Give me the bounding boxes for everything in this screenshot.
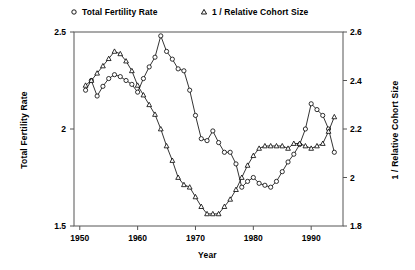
data-point bbox=[193, 113, 197, 117]
chart-legend: Total Fertility Rate 1 / Relative Cohort… bbox=[0, 6, 415, 22]
data-point bbox=[182, 69, 186, 73]
legend-label-relative-cohort-size: 1 / Relative Cohort Size bbox=[212, 7, 308, 17]
data-point bbox=[164, 49, 168, 53]
data-point bbox=[107, 76, 111, 80]
data-point bbox=[228, 197, 233, 201]
series-total-fertility-rate bbox=[83, 34, 336, 190]
data-point bbox=[292, 152, 296, 156]
x-tick-label-1980: 1980 bbox=[233, 233, 273, 243]
data-point bbox=[303, 127, 307, 131]
data-point bbox=[164, 143, 169, 147]
y-right-tick-label-2: 2 bbox=[350, 173, 380, 183]
data-point bbox=[159, 34, 163, 38]
data-point bbox=[188, 88, 192, 92]
y-left-tick-label-2: 2 bbox=[36, 124, 66, 134]
data-point bbox=[170, 158, 175, 162]
data-point bbox=[141, 93, 146, 97]
x-tick-label-1970: 1970 bbox=[175, 233, 215, 243]
x-tick-label-1990: 1990 bbox=[291, 233, 331, 243]
triangle-marker-icon bbox=[200, 8, 208, 16]
data-point bbox=[332, 150, 336, 154]
data-point bbox=[251, 175, 255, 179]
data-point bbox=[263, 183, 267, 187]
data-point bbox=[130, 82, 134, 86]
data-point bbox=[269, 185, 273, 189]
series-line bbox=[86, 36, 335, 187]
data-point bbox=[240, 185, 244, 189]
y-right-tick-label-2.2: 2.2 bbox=[350, 124, 380, 134]
y-right-tick-label-2.6: 2.6 bbox=[350, 27, 380, 37]
data-point bbox=[129, 68, 134, 72]
data-point bbox=[286, 160, 290, 164]
data-point bbox=[147, 102, 152, 106]
data-series-group bbox=[83, 34, 337, 216]
data-point bbox=[309, 102, 313, 106]
data-point bbox=[222, 150, 226, 154]
data-point bbox=[136, 90, 140, 94]
x-axis-title: Year bbox=[0, 250, 415, 260]
data-point bbox=[315, 108, 319, 112]
data-point bbox=[320, 141, 325, 145]
series-line bbox=[86, 51, 335, 213]
data-point bbox=[228, 150, 232, 154]
data-point bbox=[332, 114, 337, 118]
circle-marker-icon bbox=[70, 8, 78, 16]
data-point bbox=[234, 187, 239, 191]
legend-item-relative-cohort-size: 1 / Relative Cohort Size bbox=[200, 7, 308, 17]
series-relative-cohort-size bbox=[83, 49, 337, 216]
data-point bbox=[176, 67, 180, 71]
data-point bbox=[141, 76, 145, 80]
data-point bbox=[239, 175, 244, 179]
data-point bbox=[245, 179, 249, 183]
data-point bbox=[112, 73, 116, 77]
data-point bbox=[205, 139, 209, 143]
data-point bbox=[199, 204, 204, 208]
y-right-tick-label-2.4: 2.4 bbox=[350, 76, 380, 86]
chart-figure: Total Fertility Rate 1 / Relative Cohort… bbox=[0, 0, 415, 270]
data-point bbox=[147, 65, 151, 69]
data-point bbox=[118, 75, 122, 79]
data-point bbox=[83, 88, 87, 92]
data-point bbox=[211, 129, 215, 133]
data-point bbox=[170, 57, 174, 61]
y-axis-left-title: Total Fertility Rate bbox=[19, 60, 29, 200]
data-point bbox=[217, 140, 221, 144]
x-tick-label-1960: 1960 bbox=[118, 233, 158, 243]
plot-frame bbox=[74, 32, 343, 226]
data-point bbox=[158, 127, 163, 131]
y-right-tick-label-1.8: 1.8 bbox=[350, 221, 380, 231]
y-left-tick-label-1.5: 1.5 bbox=[36, 221, 66, 231]
data-point bbox=[153, 112, 158, 116]
legend-label-total-fertility-rate: Total Fertility Rate bbox=[82, 7, 158, 17]
y-axis-right-title: 1 / Relative Cohort Size bbox=[390, 50, 400, 210]
data-point bbox=[176, 175, 181, 179]
data-point bbox=[95, 94, 99, 98]
data-point bbox=[245, 163, 250, 167]
x-tick-label-1950: 1950 bbox=[60, 233, 100, 243]
data-point bbox=[234, 162, 238, 166]
data-point bbox=[153, 55, 157, 59]
data-point bbox=[199, 137, 203, 141]
data-point bbox=[257, 181, 261, 185]
data-point bbox=[280, 170, 284, 174]
y-left-tick-label-2.5: 2.5 bbox=[36, 27, 66, 37]
data-point bbox=[274, 179, 278, 183]
legend-item-total-fertility-rate: Total Fertility Rate bbox=[70, 7, 158, 17]
data-point bbox=[193, 194, 198, 198]
data-point bbox=[112, 49, 117, 53]
data-point bbox=[101, 84, 105, 88]
data-point bbox=[124, 78, 128, 82]
data-point bbox=[135, 83, 140, 87]
data-point bbox=[321, 113, 325, 117]
